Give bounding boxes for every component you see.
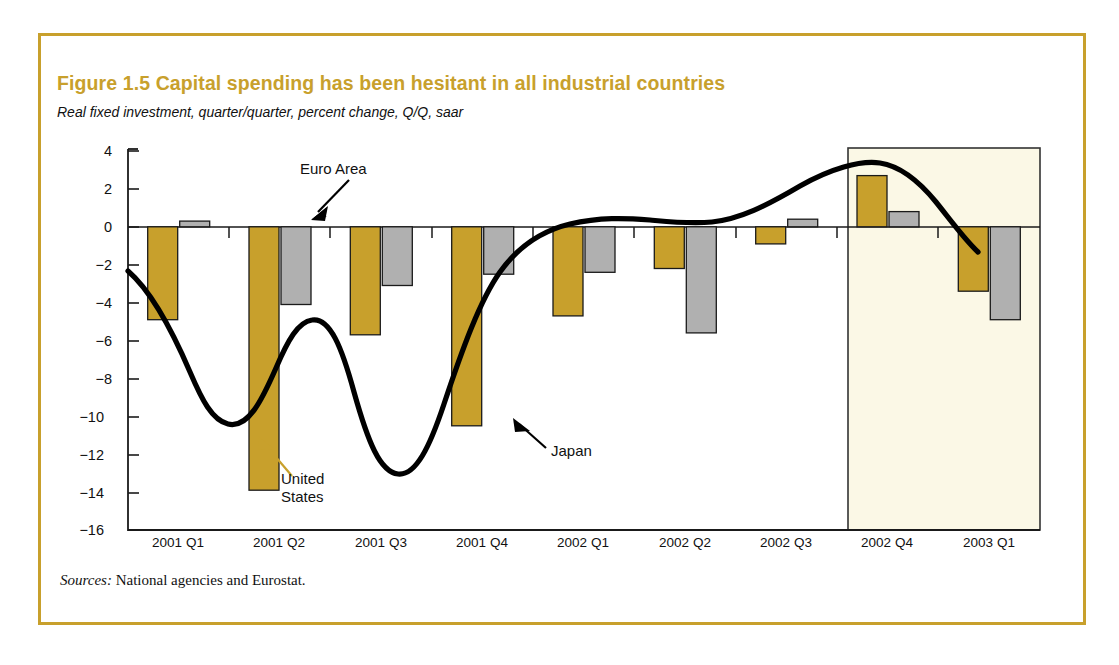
y-tick-label: −8	[66, 371, 112, 387]
sources-text: National agencies and Eurostat.	[112, 572, 306, 588]
x-tick-label: 2003 Q1	[929, 535, 1049, 550]
y-tick-label: 2	[66, 181, 112, 197]
y-tick-label: −2	[66, 257, 112, 273]
y-tick-label: −6	[66, 333, 112, 349]
bar-united-states	[553, 227, 583, 316]
bar-euro-area	[585, 227, 615, 272]
chart-canvas: 4 2 0 −2 −4 −6 −8 −10 −12 −14 −16 2001 Q…	[0, 0, 1119, 665]
y-tick-label: −12	[58, 447, 104, 463]
annotation-united-states-line2: States	[281, 488, 324, 506]
bar-united-states	[249, 227, 279, 490]
bar-euro-area	[281, 227, 311, 305]
bar-united-states	[654, 227, 684, 269]
y-tick-label: 0	[66, 219, 112, 235]
bar-euro-area	[686, 227, 716, 333]
bar-euro-area	[889, 212, 919, 227]
y-tick-label: −10	[58, 409, 104, 425]
annotation-united-states: United States	[281, 470, 324, 506]
bar-euro-area	[382, 227, 412, 286]
bar-euro-area	[484, 227, 514, 274]
bar-euro-area	[788, 219, 818, 227]
bar-united-states	[148, 227, 178, 320]
y-tick-label: −14	[58, 485, 104, 501]
figure-page: Figure 1.5 Capital spending has been hes…	[0, 0, 1119, 665]
y-tick-marks	[128, 151, 139, 530]
chart-svg	[0, 0, 1119, 665]
y-tick-label: 4	[66, 143, 112, 159]
bar-euro-area	[180, 221, 210, 227]
sources-note: Sources: National agencies and Eurostat.	[60, 572, 306, 589]
annotation-japan: Japan	[551, 442, 592, 460]
bar-united-states	[350, 227, 380, 335]
japan-arrow	[513, 418, 546, 448]
sources-label: Sources:	[60, 572, 112, 588]
annotation-euro-area: Euro Area	[300, 160, 367, 178]
annotation-united-states-line1: United	[281, 470, 324, 488]
bar-united-states	[756, 227, 786, 244]
bar-united-states	[452, 227, 482, 426]
bar-euro-area	[990, 227, 1020, 320]
bar-united-states	[857, 176, 887, 227]
euro-area-arrow	[311, 180, 349, 221]
y-tick-label: −16	[58, 522, 104, 538]
y-tick-label: −4	[66, 295, 112, 311]
